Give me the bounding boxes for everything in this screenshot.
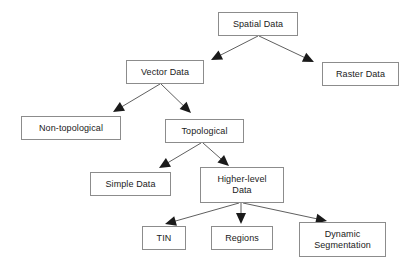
- edge-higher-level-to-dynamic-seg: [243, 203, 327, 224]
- arrowhead-icon: [302, 53, 314, 62]
- edge-higher-level-to-tin: [165, 203, 239, 226]
- node-higher-level-data[interactable]: Higher-level Data: [200, 167, 284, 203]
- node-label: Raster Data: [336, 69, 385, 80]
- diagram-canvas: Spatial DataVector DataRaster DataNon-to…: [0, 0, 415, 269]
- node-label: Higher-level Data: [217, 174, 266, 196]
- node-label: Topological: [181, 126, 227, 137]
- arrowhead-icon: [113, 102, 125, 112]
- node-tin[interactable]: TIN: [142, 226, 186, 250]
- node-label: Spatial Data: [233, 19, 283, 30]
- node-raster-data[interactable]: Raster Data: [322, 62, 399, 86]
- node-vector-data[interactable]: Vector Data: [126, 60, 204, 84]
- node-label: Regions: [225, 233, 259, 244]
- node-label: Non-topological: [39, 123, 103, 134]
- edge-spatial-to-raster: [259, 36, 314, 62]
- arrowhead-icon: [165, 216, 177, 226]
- node-dynamic-segmentation[interactable]: Dynamic Segmentation: [299, 222, 386, 257]
- node-topological[interactable]: Topological: [165, 119, 244, 143]
- arrowhead-icon: [217, 155, 229, 166]
- edge-spatial-to-vector: [211, 36, 258, 60]
- node-label: TIN: [157, 233, 172, 244]
- edge-line: [219, 36, 258, 56]
- edge-vector-to-topological: [161, 84, 191, 113]
- node-regions[interactable]: Regions: [211, 226, 273, 250]
- edge-topological-to-simple: [159, 143, 201, 168]
- node-non-topological[interactable]: Non-topological: [21, 116, 121, 140]
- arrowhead-icon: [159, 158, 171, 168]
- edge-line: [174, 203, 239, 222]
- edge-line: [121, 84, 160, 107]
- node-label: Simple Data: [105, 179, 155, 190]
- node-spatial-data[interactable]: Spatial Data: [218, 12, 298, 36]
- edge-line: [161, 84, 185, 107]
- edge-higher-level-to-regions: [236, 203, 246, 224]
- edge-line: [167, 143, 201, 163]
- arrowhead-icon: [211, 51, 223, 60]
- edge-line: [203, 143, 222, 160]
- edge-topological-to-higher-level: [203, 143, 229, 166]
- arrowhead-icon: [180, 102, 191, 113]
- edge-line: [259, 36, 306, 58]
- node-label: Vector Data: [141, 67, 189, 78]
- node-simple-data[interactable]: Simple Data: [90, 172, 171, 196]
- edge-vector-to-non-topological: [113, 84, 160, 112]
- node-label: Dynamic Segmentation: [314, 229, 371, 251]
- edge-line: [243, 203, 318, 219]
- arrowhead-icon: [236, 213, 246, 224]
